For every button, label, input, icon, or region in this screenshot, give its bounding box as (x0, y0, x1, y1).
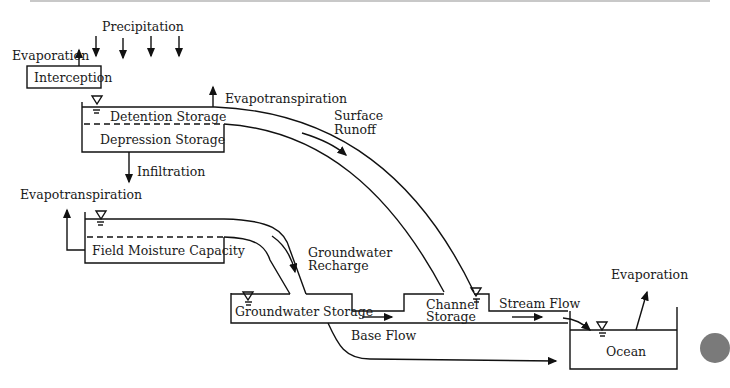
precipitation-arrows (96, 36, 179, 58)
evaporation-ocean-label: Evaporation (611, 267, 688, 282)
groundwater-recharge-label-2: Recharge (308, 258, 369, 273)
ocean-box (570, 307, 677, 369)
evapotranspiration-left-label: Evapotranspiration (20, 187, 142, 202)
channel-storage-label-2: Storage (426, 309, 476, 324)
ocean-label: Ocean (606, 344, 646, 359)
infiltration-label: Infiltration (137, 164, 205, 179)
ocean-evaporation-arrow (636, 292, 647, 330)
detention-storage-label: Detention Storage (110, 109, 226, 124)
interception-label: Interception (34, 70, 112, 85)
evapotranspiration-top-label: Evapotranspiration (225, 91, 347, 106)
water-level-icon (92, 96, 102, 104)
surface-runoff-label-2: Runoff (334, 122, 377, 137)
page-edge-tab (700, 333, 730, 363)
precipitation-label: Precipitation (102, 19, 184, 34)
evaporation-top-label: Evaporation (12, 48, 89, 63)
depression-storage-label: Depression Storage (100, 132, 225, 147)
groundwater-storage-label: Groundwater Storage (235, 304, 373, 319)
stream-to-ocean-arrow (563, 318, 590, 330)
field-moisture-capacity-label: Field Moisture Capacity (92, 243, 246, 258)
stream-flow-label: Stream Flow (499, 296, 580, 311)
evapotranspiration-left-arrow (67, 210, 85, 250)
surface-runoff-label-1: Surface (334, 108, 383, 123)
base-flow-label: Base Flow (351, 328, 417, 343)
